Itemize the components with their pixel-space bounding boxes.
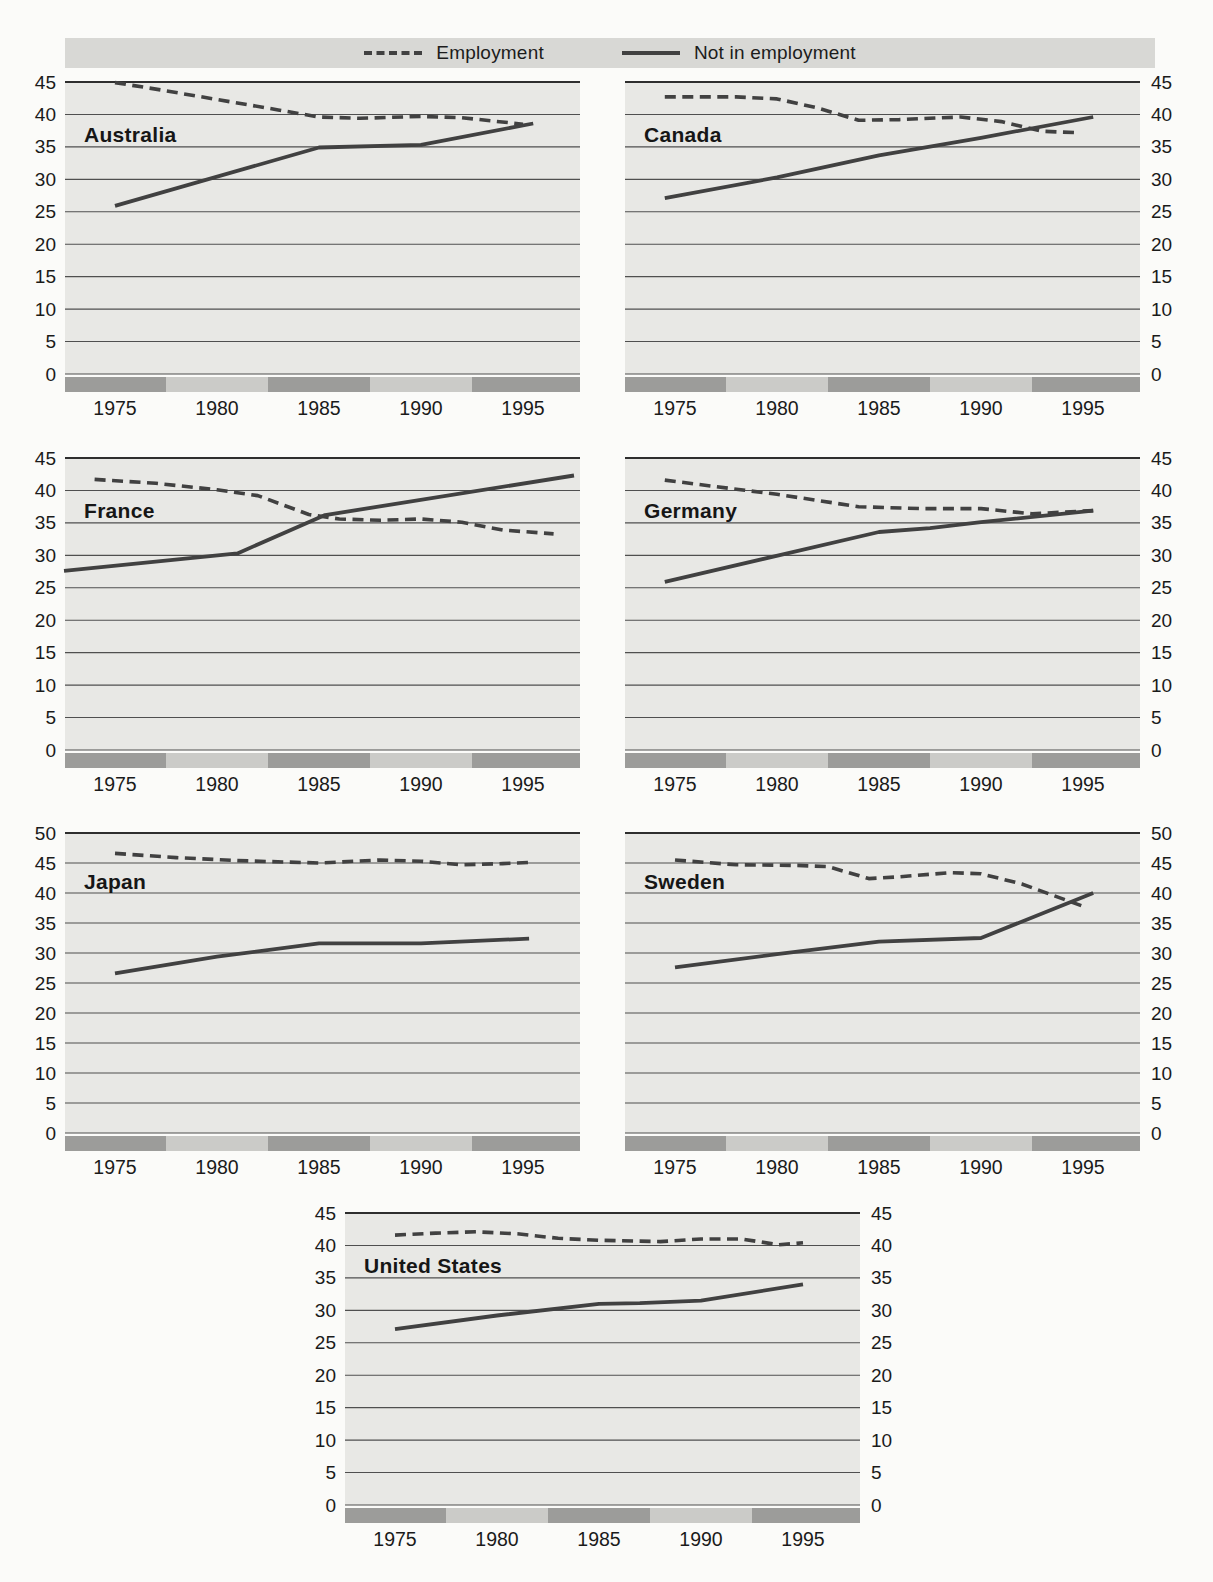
y-tick-label: 20 xyxy=(1151,234,1172,255)
y-tick-label: 20 xyxy=(35,1003,56,1024)
y-tick-label: 50 xyxy=(35,823,56,844)
chart-australia: 45403530252015105019751980198519901995Au… xyxy=(35,72,580,420)
period-band-segment xyxy=(625,377,726,392)
y-tick-label: 20 xyxy=(35,610,56,631)
x-tick-label: 1980 xyxy=(755,397,799,419)
figure: Employment Not in employment 45403530252… xyxy=(0,0,1213,1582)
period-band-segment xyxy=(548,1508,650,1523)
y-tick-label: 40 xyxy=(35,480,56,501)
x-tick-label: 1985 xyxy=(857,397,901,419)
x-tick-label: 1985 xyxy=(857,1156,901,1178)
y-tick-label: 30 xyxy=(1151,169,1172,190)
y-tick-label: 15 xyxy=(35,266,56,287)
y-tick-label: 5 xyxy=(871,1462,882,1483)
y-tick-label: 0 xyxy=(871,1495,882,1516)
y-tick-label: 40 xyxy=(871,1235,892,1256)
y-tick-label: 10 xyxy=(1151,299,1172,320)
x-tick-label: 1975 xyxy=(93,1156,137,1178)
y-tick-label: 10 xyxy=(1151,1063,1172,1084)
period-band-segment xyxy=(370,753,472,768)
y-tick-label: 15 xyxy=(871,1397,892,1418)
period-band-segment xyxy=(1032,1136,1140,1151)
x-tick-label: 1985 xyxy=(297,397,341,419)
x-tick-label: 1980 xyxy=(755,1156,799,1178)
y-tick-label: 0 xyxy=(1151,364,1162,385)
y-tick-label: 10 xyxy=(35,675,56,696)
y-tick-label: 15 xyxy=(1151,1033,1172,1054)
x-tick-label: 1990 xyxy=(959,773,1003,795)
period-band-segment xyxy=(166,377,268,392)
period-band-segment xyxy=(726,1136,828,1151)
country-label: Japan xyxy=(84,870,146,893)
y-tick-label: 25 xyxy=(35,577,56,598)
period-band-segment xyxy=(65,377,166,392)
y-tick-label: 20 xyxy=(35,234,56,255)
period-band-segment xyxy=(930,753,1032,768)
y-tick-label: 45 xyxy=(1151,72,1172,93)
y-tick-label: 35 xyxy=(35,136,56,157)
y-tick-label: 0 xyxy=(45,1123,56,1144)
period-band-segment xyxy=(930,1136,1032,1151)
period-band-segment xyxy=(345,1508,446,1523)
x-tick-label: 1995 xyxy=(1061,1156,1105,1178)
y-tick-label: 40 xyxy=(1151,104,1172,125)
period-band-segment xyxy=(625,1136,726,1151)
period-band-segment xyxy=(65,753,166,768)
country-label: Sweden xyxy=(644,870,725,893)
x-tick-label: 1990 xyxy=(399,773,443,795)
chart-japan: 5045403530252015105019751980198519901995… xyxy=(35,823,580,1179)
y-tick-label: 40 xyxy=(1151,480,1172,501)
period-band-segment xyxy=(472,753,580,768)
period-band-segment xyxy=(828,377,930,392)
y-tick-label: 15 xyxy=(35,642,56,663)
x-tick-label: 1990 xyxy=(679,1528,723,1550)
country-label: Canada xyxy=(644,123,722,146)
x-tick-label: 1980 xyxy=(755,773,799,795)
y-tick-label: 30 xyxy=(315,1300,336,1321)
period-band-segment xyxy=(65,1136,166,1151)
y-tick-label: 25 xyxy=(315,1332,336,1353)
y-tick-label: 30 xyxy=(35,545,56,566)
y-tick-label: 5 xyxy=(325,1462,336,1483)
y-tick-label: 10 xyxy=(35,1063,56,1084)
period-band-segment xyxy=(472,377,580,392)
y-tick-label: 20 xyxy=(871,1365,892,1386)
y-tick-label: 15 xyxy=(1151,642,1172,663)
y-tick-label: 0 xyxy=(1151,1123,1162,1144)
x-tick-label: 1985 xyxy=(857,773,901,795)
y-tick-label: 10 xyxy=(871,1430,892,1451)
y-tick-label: 35 xyxy=(1151,136,1172,157)
y-tick-label: 20 xyxy=(315,1365,336,1386)
x-tick-label: 1980 xyxy=(195,397,239,419)
y-tick-label: 25 xyxy=(35,201,56,222)
y-tick-label: 5 xyxy=(45,707,56,728)
x-tick-label: 1990 xyxy=(959,1156,1003,1178)
y-tick-label: 25 xyxy=(1151,973,1172,994)
y-tick-label: 35 xyxy=(871,1267,892,1288)
period-band-segment xyxy=(472,1136,580,1151)
y-tick-label: 30 xyxy=(35,169,56,190)
period-band-segment xyxy=(166,1136,268,1151)
x-tick-label: 1995 xyxy=(501,773,545,795)
y-tick-label: 5 xyxy=(1151,331,1162,352)
x-tick-label: 1990 xyxy=(959,397,1003,419)
x-tick-label: 1995 xyxy=(1061,397,1105,419)
y-tick-label: 25 xyxy=(871,1332,892,1353)
y-tick-label: 30 xyxy=(871,1300,892,1321)
x-tick-label: 1975 xyxy=(93,773,137,795)
period-band-segment xyxy=(828,753,930,768)
y-tick-label: 25 xyxy=(1151,201,1172,222)
x-tick-label: 1975 xyxy=(373,1528,417,1550)
y-tick-label: 40 xyxy=(35,883,56,904)
x-tick-label: 1980 xyxy=(475,1528,519,1550)
period-band-segment xyxy=(268,1136,370,1151)
y-tick-label: 5 xyxy=(45,331,56,352)
y-tick-label: 45 xyxy=(1151,853,1172,874)
chart-sweden: 5045403530252015105019751980198519901995… xyxy=(625,823,1172,1179)
chart-canada: 45403530252015105019751980198519901995Ca… xyxy=(625,72,1172,420)
y-tick-label: 40 xyxy=(1151,883,1172,904)
period-band-segment xyxy=(726,377,828,392)
y-tick-label: 5 xyxy=(1151,1093,1162,1114)
x-tick-label: 1985 xyxy=(577,1528,621,1550)
x-tick-label: 1985 xyxy=(297,1156,341,1178)
